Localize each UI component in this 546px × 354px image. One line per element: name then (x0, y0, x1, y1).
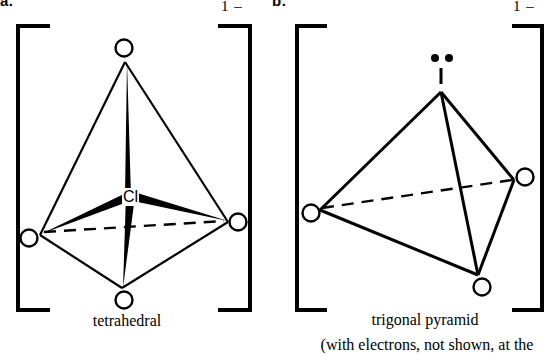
panel-b-lone-pair-dots (431, 54, 453, 62)
bond-cl-front (123, 194, 135, 288)
bond-cl-apex (125, 62, 131, 196)
panel-a-caption: tetrahedral (52, 312, 202, 330)
central-atom-label-cl: Cl (122, 188, 139, 206)
edge-b-apex-right (441, 92, 514, 180)
panel-a-letter: a. (0, 0, 14, 9)
vertex-o-bottom (116, 292, 133, 309)
bond-cl-left (41, 192, 130, 234)
panel-a-charge: 1 – (221, 0, 243, 15)
panel-b-caption-line2: (with electrons, not shown, at the (307, 336, 546, 354)
vertex-o-left (21, 230, 38, 247)
vertex-b-o-right (517, 169, 534, 186)
panel-b-letter: b. (272, 0, 286, 9)
edge-b-left-front (320, 210, 478, 275)
vertex-b-o-bottom (474, 279, 491, 296)
edge-left-front (40, 235, 122, 288)
edge-b-right-front (478, 180, 514, 275)
panel-a-tetrahedron-edges (40, 62, 228, 288)
edge-b-apex-front (441, 92, 478, 275)
vertex-o-right (230, 214, 247, 231)
bond-cl-right (133, 192, 228, 221)
vertex-b-o-left (303, 205, 320, 222)
lone-pair-dot-left (431, 54, 439, 62)
panel-a-vertices (21, 40, 247, 309)
lone-pair-dot-right (445, 54, 453, 62)
edge-right-front (122, 222, 228, 288)
panel-b-charge: 1 – (513, 0, 535, 15)
edge-apex-left (40, 62, 125, 235)
panel-b-caption: trigonal pyramid (340, 311, 510, 329)
panel-b-hidden-edge (322, 180, 512, 208)
panel-a-bracket (18, 26, 250, 310)
vertex-o-top (116, 40, 133, 57)
panel-b-vertices (303, 169, 534, 296)
edge-b-left-right-dashed (322, 180, 512, 208)
